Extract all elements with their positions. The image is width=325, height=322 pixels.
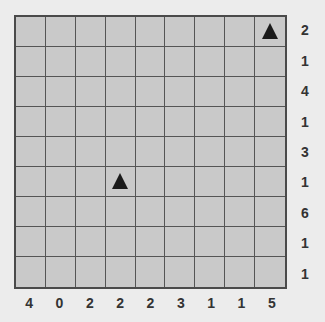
grid-cell[interactable] [255,227,285,257]
column-clue: 5 [257,289,287,317]
column-clue: 2 [75,289,105,317]
column-clue: 2 [105,289,135,317]
column-clue: 2 [135,289,165,317]
grid-cell[interactable] [225,107,255,137]
grid-cell[interactable] [16,137,46,167]
grid-cell[interactable] [46,227,76,257]
grid-cell[interactable] [16,167,46,197]
grid-cell[interactable] [255,47,285,77]
grid-cell[interactable] [106,227,136,257]
grid-cell[interactable] [46,47,76,77]
column-clues: 402223115 [14,289,287,317]
grid-cell[interactable] [46,257,76,287]
grid-cell[interactable] [225,257,255,287]
grid-cell[interactable] [16,107,46,137]
grid-cell[interactable] [225,17,255,47]
row-clue: 1 [295,45,315,75]
grid-cell[interactable] [165,167,195,197]
grid-cell[interactable] [16,197,46,227]
row-clue: 4 [295,76,315,106]
grid-cell[interactable] [106,107,136,137]
grid-cell[interactable] [106,137,136,167]
grid-cell[interactable] [195,137,225,167]
row-clue: 1 [295,228,315,258]
puzzle-grid [14,15,287,289]
row-clues: 214131611 [295,15,315,289]
grid-cell[interactable] [16,227,46,257]
grid-cell[interactable] [225,227,255,257]
grid-cell[interactable] [46,107,76,137]
grid-cell[interactable] [76,17,106,47]
grid-cell[interactable] [46,137,76,167]
grid-cell[interactable] [16,257,46,287]
grid-cell[interactable] [16,17,46,47]
grid-cell[interactable] [136,227,166,257]
grid-cell[interactable] [225,197,255,227]
grid-cell[interactable] [16,77,46,107]
grid-cell[interactable] [225,167,255,197]
grid-cell[interactable] [76,197,106,227]
row-clue: 3 [295,137,315,167]
grid-cell[interactable] [195,47,225,77]
grid-cell[interactable] [165,107,195,137]
grid-cell[interactable] [76,107,106,137]
grid-cell[interactable] [76,227,106,257]
grid-cell[interactable] [76,137,106,167]
grid-cell[interactable] [106,257,136,287]
grid-cell[interactable] [136,197,166,227]
triangle-icon [112,173,128,189]
grid-cell[interactable] [195,197,225,227]
grid-cell[interactable] [195,77,225,107]
grid-cell[interactable] [225,77,255,107]
grid-cell[interactable] [106,167,136,197]
grid-cell[interactable] [255,17,285,47]
grid-cell[interactable] [165,17,195,47]
grid-cell[interactable] [255,137,285,167]
grid-cell[interactable] [255,77,285,107]
row-clue: 1 [295,106,315,136]
grid-cell[interactable] [106,197,136,227]
grid-cell[interactable] [195,167,225,197]
grid-cell[interactable] [76,77,106,107]
grid-cell[interactable] [106,77,136,107]
row-clue: 6 [295,198,315,228]
grid-cell[interactable] [136,47,166,77]
grid-cell[interactable] [46,197,76,227]
column-clue: 3 [166,289,196,317]
grid-cell[interactable] [46,17,76,47]
grid-cell[interactable] [195,17,225,47]
grid-cell[interactable] [136,257,166,287]
grid-cell[interactable] [136,167,166,197]
grid-cell[interactable] [46,167,76,197]
grid-cell[interactable] [106,17,136,47]
grid-cell[interactable] [76,167,106,197]
grid-cell[interactable] [76,257,106,287]
grid-cell[interactable] [76,47,106,77]
row-clue: 2 [295,15,315,45]
grid-cell[interactable] [195,227,225,257]
grid-cell[interactable] [136,107,166,137]
grid-cell[interactable] [165,77,195,107]
grid-cell[interactable] [255,167,285,197]
grid-cell[interactable] [165,257,195,287]
grid-cell[interactable] [136,77,166,107]
row-clue: 1 [295,259,315,289]
grid-cell[interactable] [165,47,195,77]
grid-cell[interactable] [106,47,136,77]
triangle-icon [262,23,278,39]
grid-cell[interactable] [225,47,255,77]
grid-cell[interactable] [195,257,225,287]
grid-cell[interactable] [165,197,195,227]
grid-cell[interactable] [136,17,166,47]
grid-cell[interactable] [225,137,255,167]
grid-cell[interactable] [195,107,225,137]
grid-cell[interactable] [255,107,285,137]
grid-cell[interactable] [46,77,76,107]
grid-cell[interactable] [16,47,46,77]
grid-cell[interactable] [165,137,195,167]
grid-cell[interactable] [165,227,195,257]
grid-cell[interactable] [255,197,285,227]
column-clue: 1 [196,289,226,317]
grid-cell[interactable] [255,257,285,287]
grid-cell[interactable] [136,137,166,167]
